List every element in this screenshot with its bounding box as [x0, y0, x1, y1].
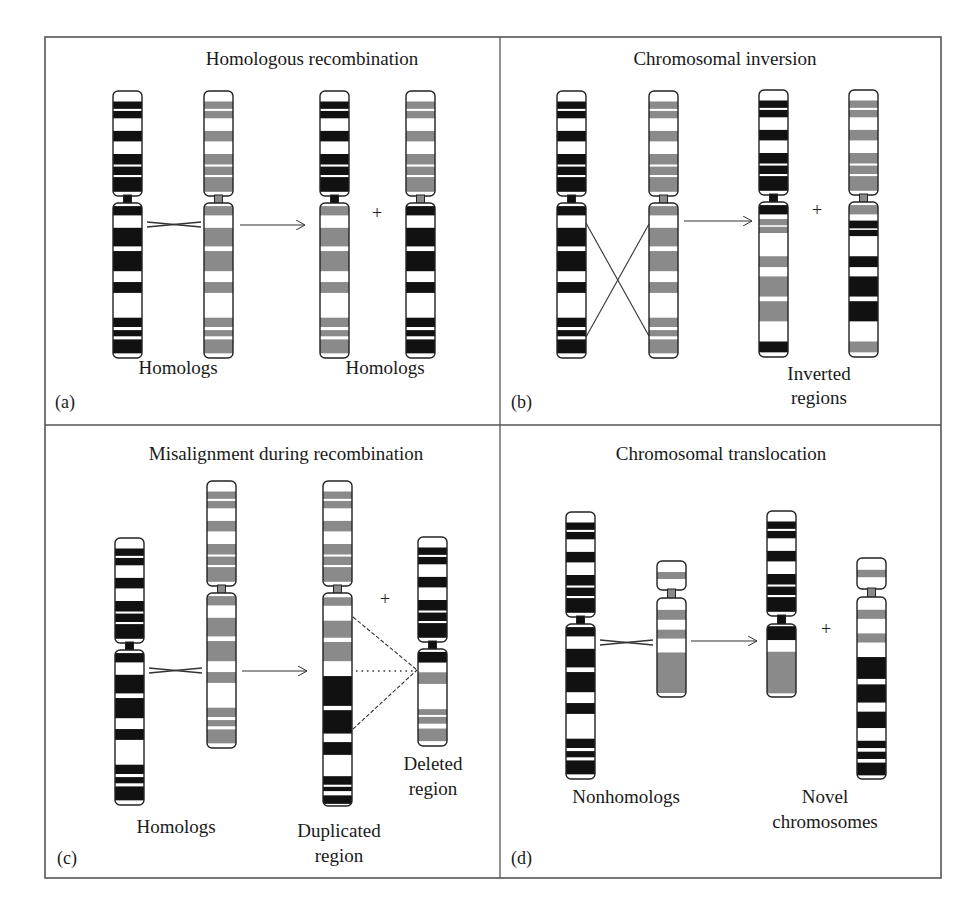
chromosome-d3: [767, 511, 796, 697]
chromosome-b1: [557, 91, 586, 358]
panel-b-caption-line2: regions: [769, 387, 869, 409]
chromosome-d2: [657, 561, 686, 697]
chromosome-a2: [204, 91, 233, 358]
panel-c-tag: (c): [57, 848, 77, 869]
chromosome-c2: [207, 481, 236, 748]
chromosome-c1: [115, 538, 144, 805]
panel-d-caption-chromosomes: chromosomes: [765, 811, 885, 833]
panel-c-caption-deleted-region: region: [393, 778, 473, 800]
chromosome-b3: [759, 90, 788, 357]
crossover-mark-icon: [149, 668, 202, 673]
figure: ++++ Homologous recombination Homologs H…: [0, 0, 980, 914]
panel-d: +: [566, 511, 886, 779]
chromosome-b4: [849, 90, 878, 357]
panel-d-title: Chromosomal translocation: [601, 443, 841, 465]
panel-a-tag: (a): [55, 392, 75, 413]
chromosome-a4: [406, 91, 435, 358]
duplication-dashed-line: [353, 670, 417, 729]
panel-c-title: Misalignment during recombination: [121, 443, 451, 465]
plus-sign-icon: +: [821, 619, 831, 639]
panel-b-caption-line1: Inverted: [769, 363, 869, 385]
chromosome-a3: [320, 91, 349, 358]
crossover-mark-icon: [147, 222, 201, 227]
plus-sign-icon: +: [380, 589, 390, 609]
chromosome-d1: [566, 512, 595, 779]
panel-c-caption-deleted: Deleted: [393, 753, 473, 775]
panel-d-caption-novel: Novel: [765, 786, 885, 808]
panel-a-title: Homologous recombination: [192, 48, 432, 70]
chromosome-c4: [418, 537, 447, 746]
panel-d-tag: (d): [511, 848, 532, 869]
panel-c-caption-duplicated-region: region: [279, 845, 399, 867]
plus-sign-icon: +: [372, 203, 382, 223]
chromosome-c3: [323, 481, 352, 806]
panel-b-title: Chromosomal inversion: [615, 48, 835, 70]
chromosome-b2: [649, 91, 678, 358]
crossover-mark-icon: [600, 640, 653, 645]
panel-c-caption-duplicated: Duplicated: [279, 820, 399, 842]
duplication-dashed-line: [353, 617, 417, 670]
chromosome-d4: [857, 558, 886, 779]
panel-c-caption-homologs: Homologs: [116, 816, 236, 838]
panel-d-caption-nonhomologs: Nonhomologs: [556, 786, 696, 808]
panel-b: +: [557, 90, 878, 358]
panel-b-tag: (b): [511, 392, 532, 413]
plus-sign-icon: +: [812, 200, 822, 220]
panel-a: +: [113, 91, 435, 358]
panel-a-caption-left: Homologs: [118, 357, 238, 379]
panel-a-caption-right: Homologs: [325, 357, 445, 379]
chromosome-a1: [113, 91, 142, 358]
